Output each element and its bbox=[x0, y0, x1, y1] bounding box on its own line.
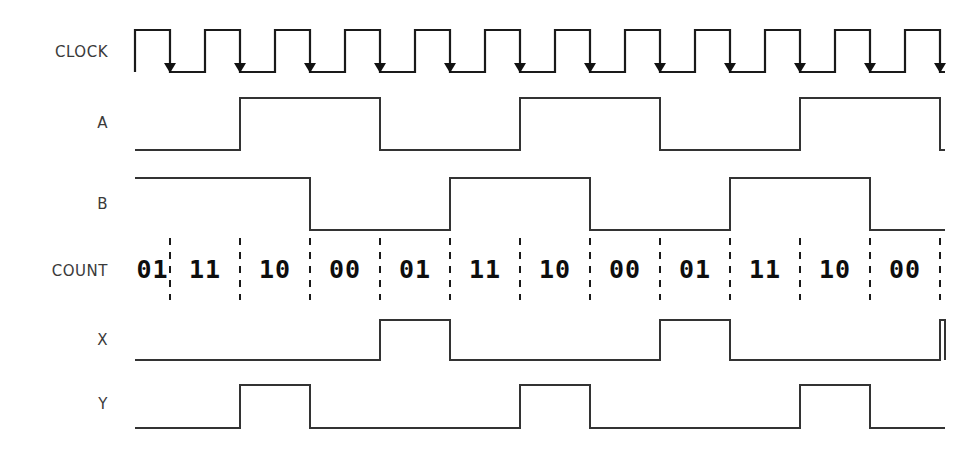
waveform-canvas: CLOCKABCOUNTXY 011110000111100001111000 bbox=[0, 0, 975, 457]
count-value: 11 bbox=[749, 255, 781, 284]
count-value: 00 bbox=[329, 255, 361, 284]
count-value: 10 bbox=[539, 255, 571, 284]
count-value: 01 bbox=[679, 255, 711, 284]
row-label-count: COUNT bbox=[52, 262, 108, 280]
count-values-group: 011110000111100001111000 bbox=[136, 255, 921, 284]
row-label-b: B bbox=[97, 195, 108, 213]
waveform-x bbox=[135, 320, 945, 360]
clock-waveform bbox=[135, 30, 945, 72]
timing-diagram: CLOCKABCOUNTXY 011110000111100001111000 bbox=[0, 0, 975, 457]
count-value: 11 bbox=[469, 255, 501, 284]
row-label-clock: CLOCK bbox=[55, 43, 109, 61]
row-label-x: X bbox=[97, 331, 108, 349]
count-value: 00 bbox=[889, 255, 921, 284]
count-value: 01 bbox=[399, 255, 431, 284]
waveform-y bbox=[135, 385, 945, 428]
count-value: 01 bbox=[136, 255, 168, 284]
row-label-y: Y bbox=[97, 395, 108, 413]
waveform-a bbox=[135, 98, 945, 150]
waveforms-group bbox=[135, 30, 945, 428]
count-value: 00 bbox=[609, 255, 641, 284]
waveform-b bbox=[135, 178, 945, 230]
count-value: 10 bbox=[819, 255, 851, 284]
row-labels-group: CLOCKABCOUNTXY bbox=[52, 43, 109, 413]
count-value: 11 bbox=[189, 255, 221, 284]
row-label-a: A bbox=[97, 114, 108, 132]
count-value: 10 bbox=[259, 255, 291, 284]
